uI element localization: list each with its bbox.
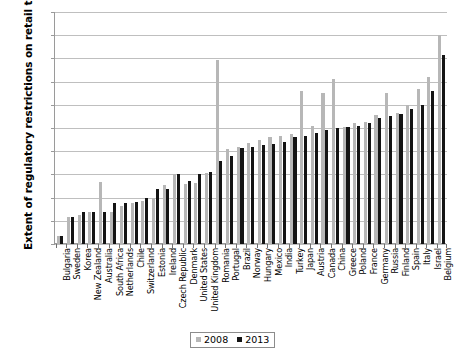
x-axis-label-south-africa: South Africa	[116, 248, 124, 296]
gridline	[55, 244, 447, 245]
bar-group	[55, 12, 66, 244]
bar-2008	[321, 93, 324, 244]
x-axis-label-new-zealand: New Zealand	[94, 248, 102, 300]
bar-group	[246, 12, 257, 244]
bar-2013	[251, 147, 254, 244]
bar-2013	[145, 198, 148, 244]
x-axis-label-russia: Russia	[391, 248, 399, 273]
bar-2008	[258, 140, 261, 244]
retail-trade-restrictions-chart: Extent of regulatory restrictions on ret…	[0, 0, 455, 361]
x-axis-label-greece: Greece	[349, 248, 357, 276]
bar-2008	[279, 136, 282, 244]
bar-2008	[57, 236, 60, 244]
bar-2008	[427, 77, 430, 244]
bar-group	[320, 12, 331, 244]
x-axis-label-austria: Austria	[317, 248, 325, 276]
bar-2008	[406, 105, 409, 244]
bar-2013	[389, 116, 392, 244]
legend-item-2008: 2008	[196, 334, 228, 345]
x-axis-label-italy: Italy	[423, 248, 431, 265]
x-axis-label-mexico: Mexico	[275, 248, 283, 276]
bar-2008	[353, 123, 356, 244]
x-axis-label-brazil: Brazil	[243, 248, 251, 270]
bar-2008	[364, 122, 367, 244]
plot-area: 0.000.501.001.502.002.503.003.504.004.50…	[54, 12, 446, 244]
bar-2013	[60, 236, 63, 244]
bar-2008	[99, 182, 102, 244]
bar-2013	[198, 174, 201, 244]
bar-group	[235, 12, 246, 244]
bar-2008	[163, 185, 166, 244]
x-axis-label-korea: Korea	[84, 248, 92, 270]
bar-2008	[300, 91, 303, 244]
bar-group	[172, 12, 183, 244]
legend-label-2013: 2013	[245, 334, 269, 345]
bar-2008	[438, 35, 441, 244]
bar-2013	[103, 212, 106, 244]
bar-group	[405, 12, 416, 244]
bar-2013	[209, 172, 212, 244]
bar-2013	[368, 123, 371, 244]
bar-2013	[357, 126, 360, 244]
bar-2008	[216, 60, 219, 244]
bar-group	[66, 12, 77, 244]
x-axis-label-united-states: United States	[200, 248, 208, 302]
bar-2013	[240, 148, 243, 245]
x-axis-label-germany: Germany	[381, 248, 389, 285]
bar-group	[267, 12, 278, 244]
bar-group	[394, 12, 405, 244]
bar-2008	[88, 212, 91, 244]
bar-2013	[304, 136, 307, 244]
bar-group	[341, 12, 352, 244]
bar-2013	[188, 181, 191, 244]
bar-2008	[343, 127, 346, 244]
bar-group	[299, 12, 310, 244]
bar-2013	[135, 202, 138, 244]
bar-2008	[237, 147, 240, 244]
x-axis-label-switzerland: Switzerland	[147, 248, 155, 294]
legend-swatch-2013-icon	[237, 337, 242, 342]
bar-2008	[247, 143, 250, 244]
bar-2008	[268, 137, 271, 244]
x-axis-label-japan: Japan	[306, 248, 314, 270]
bar-2013	[82, 212, 85, 244]
bar-2008	[311, 126, 314, 244]
bar-2013	[124, 203, 127, 244]
bar-2008	[184, 184, 187, 244]
bar-2013	[283, 142, 286, 244]
bar-2008	[120, 206, 123, 244]
bar-group	[182, 12, 193, 244]
bar-group	[161, 12, 172, 244]
bar-group	[373, 12, 384, 244]
bar-group	[140, 12, 151, 244]
bar-2013	[166, 189, 169, 244]
bar-group	[87, 12, 98, 244]
bar-2008	[290, 134, 293, 244]
bar-2013	[156, 189, 159, 244]
bar-group	[214, 12, 225, 244]
bar-2013	[272, 144, 275, 244]
bar-2013	[71, 217, 74, 244]
x-axis-label-canada: Canada	[328, 248, 336, 278]
bar-2008	[332, 79, 335, 244]
x-axis-label-netherlands: Netherlands	[126, 248, 134, 296]
bar-2013	[177, 174, 180, 244]
bar-2008	[226, 149, 229, 244]
bar-group	[436, 12, 447, 244]
bar-2013	[325, 130, 328, 244]
x-axis-label-estonia: Estonia	[158, 248, 166, 277]
bar-2008	[385, 93, 388, 244]
bar-2013	[431, 91, 434, 244]
x-axis-label-united-kingdom: United Kingdom	[211, 248, 219, 312]
x-axis-label-hungary: Hungary	[264, 248, 272, 282]
bar-group	[288, 12, 299, 244]
x-axis-label-belgium: Belgium	[444, 248, 452, 281]
bar-2013	[315, 133, 318, 244]
bar-group	[309, 12, 320, 244]
x-axis-label-ireland: Ireland	[169, 248, 177, 275]
bar-2013	[293, 137, 296, 244]
bar-2013	[336, 128, 339, 244]
x-axis-label-czech-republic: Czech Republic	[179, 248, 187, 308]
bar-group	[203, 12, 214, 244]
bar-group	[225, 12, 236, 244]
